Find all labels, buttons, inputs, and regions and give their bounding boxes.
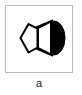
figure-panel: a [0,0,82,95]
figure-frame [5,5,73,73]
pentagonal-solid-diagram [6,6,72,72]
pentagon-face-icon [21,24,38,53]
figure-caption: a [0,76,78,90]
